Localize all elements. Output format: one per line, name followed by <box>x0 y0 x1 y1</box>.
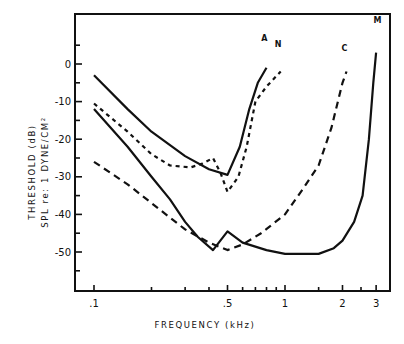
y-tick-label: -40 <box>55 209 71 220</box>
y-axis-ticks: 0-10-20-30-40-50 <box>55 45 82 271</box>
curve-label-a: A <box>261 34 268 43</box>
curve-label-n: N <box>275 40 282 49</box>
curve-label-c: C <box>342 44 348 53</box>
x-tick-label: .1 <box>89 298 99 309</box>
curve-m <box>94 53 376 254</box>
y-tick-label: 0 <box>65 59 71 70</box>
x-tick-label: 2 <box>339 298 345 309</box>
curve-c <box>94 72 347 251</box>
y-axis-title-line2: SPL re: 1 DYNE/CM² <box>40 116 50 228</box>
curve-label-m: M <box>374 16 382 25</box>
x-tick-label: .5 <box>223 298 233 309</box>
y-tick-label: -10 <box>55 96 71 107</box>
x-tick-label: 1 <box>282 298 288 309</box>
threshold-frequency-chart: 0-10-20-30-40-50 .1.5123 ANCM FREQUENCY … <box>0 0 404 344</box>
curve-labels: ANCM <box>261 16 381 53</box>
plot-frame <box>75 14 390 291</box>
y-tick-label: -50 <box>55 247 71 258</box>
y-tick-label: -30 <box>55 171 71 182</box>
y-tick-label: -20 <box>55 134 71 145</box>
x-tick-label: 3 <box>373 298 379 309</box>
y-axis-title-line1: THRESHOLD (dB) <box>27 124 37 221</box>
x-axis-title: FREQUENCY (kHz) <box>155 320 256 330</box>
curve-n <box>94 72 281 192</box>
x-axis-ticks: .1.5123 <box>89 285 379 309</box>
plot-border <box>75 14 390 291</box>
data-curves <box>94 53 376 254</box>
curve-a <box>94 68 267 175</box>
